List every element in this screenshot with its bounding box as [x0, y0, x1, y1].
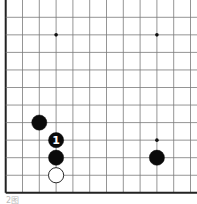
stones: 1 [32, 115, 165, 183]
grid-lines [6, 0, 197, 193]
black-stone [149, 150, 164, 165]
white-stone [49, 168, 64, 183]
star-point-icon [54, 33, 58, 37]
star-point-icon [155, 33, 159, 37]
black-stone [32, 115, 47, 130]
black-stone [49, 150, 64, 165]
black-stone: 1 [49, 133, 64, 148]
move-number-label: 1 [52, 134, 60, 147]
diagram-caption: 2图 [6, 197, 19, 204]
go-board: 1 [0, 0, 197, 204]
star-point-icon [155, 138, 159, 142]
